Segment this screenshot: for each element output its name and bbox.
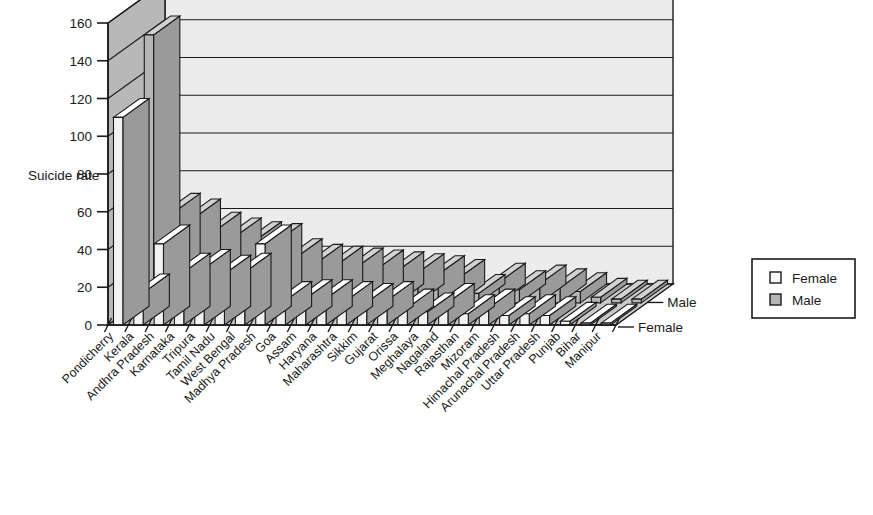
legend-label-male[interactable]: Male xyxy=(792,293,821,308)
bar-female-0 xyxy=(113,99,149,325)
y-tick-label: 160 xyxy=(69,16,92,31)
y-tick-label: 140 xyxy=(69,54,92,69)
depth-label-female: Female xyxy=(638,320,683,335)
y-tick-label: 20 xyxy=(77,280,92,295)
y-tick-label: 100 xyxy=(69,129,92,144)
chart-legend[interactable]: FemaleMale xyxy=(752,259,855,318)
y-tick-label: 60 xyxy=(77,205,92,220)
depth-label-male: Male xyxy=(667,295,696,310)
suicide-rate-3d-bar-chart: Suicide rate 020406080100120140160 Pondi… xyxy=(0,0,873,515)
bar-front xyxy=(540,316,549,325)
bar-front xyxy=(612,299,621,303)
legend-swatch-male[interactable] xyxy=(770,294,781,305)
y-tick-label: 80 xyxy=(77,167,92,182)
y-tick-label: 40 xyxy=(77,243,92,258)
y-tick-label: 0 xyxy=(84,318,92,333)
legend-box xyxy=(752,259,855,318)
bar-front xyxy=(500,316,509,325)
legend-label-female[interactable]: Female xyxy=(792,271,837,286)
bar-front xyxy=(632,299,641,303)
category-labels: PondicherryKeralaAndhra PradeshKarnataka… xyxy=(59,329,604,415)
bar-side xyxy=(123,99,149,325)
chart-canvas: Suicide rate 020406080100120140160 Pondi… xyxy=(0,0,873,515)
y-tick-label: 120 xyxy=(69,92,92,107)
legend-swatch-female[interactable] xyxy=(770,272,781,283)
bar-front xyxy=(113,117,122,325)
